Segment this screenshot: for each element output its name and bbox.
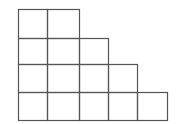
grid-cell — [80, 93, 109, 121]
grid-cell — [19, 10, 48, 39]
grid-cell — [109, 65, 138, 93]
grid-cell — [19, 93, 48, 121]
grid-cell — [19, 39, 48, 65]
grid-cell — [138, 93, 168, 121]
grid-cell — [19, 65, 48, 93]
grid-cell — [48, 93, 80, 121]
grid-cell — [109, 93, 138, 121]
grid-cell — [80, 65, 109, 93]
grid-cell — [48, 10, 80, 39]
grid-cell — [80, 39, 109, 65]
grid-cell — [48, 65, 80, 93]
staircase-grid-diagram — [0, 0, 177, 124]
grid-cell — [48, 39, 80, 65]
